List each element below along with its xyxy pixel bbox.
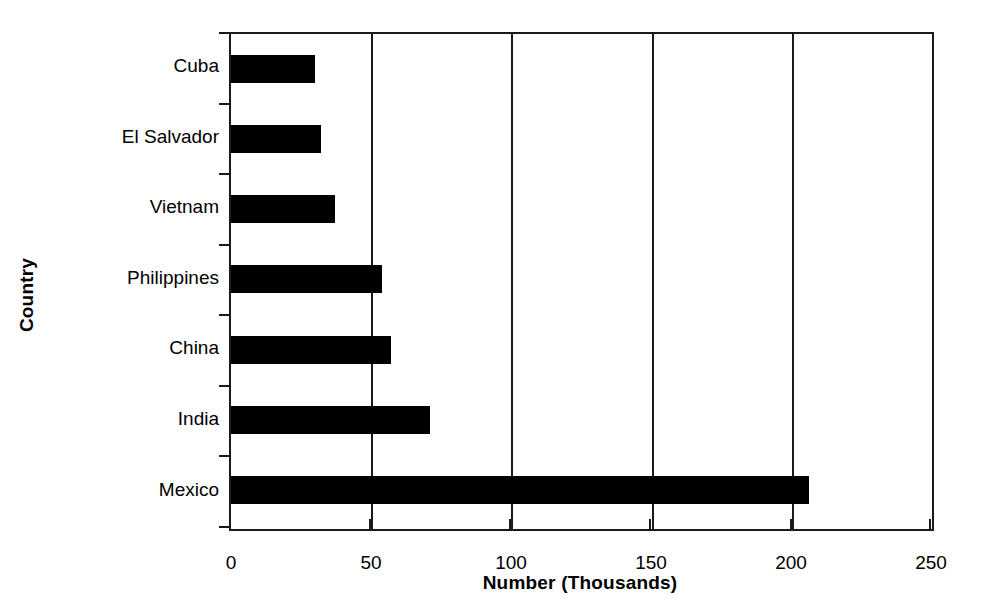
- bar-india: [231, 406, 430, 434]
- bar-china: [231, 336, 391, 364]
- x-axis-label-150: 150: [635, 552, 667, 574]
- x-axis-tick-250: [929, 519, 931, 529]
- x-axis-tick-0: [229, 519, 231, 529]
- bar-vietnam: [231, 195, 335, 223]
- x-axis-title: Number (Thousands): [483, 572, 678, 594]
- x-axis-tick-50: [369, 519, 371, 529]
- x-axis-tick-200: [790, 519, 792, 529]
- x-axis-label-50: 50: [360, 552, 381, 574]
- bar-philippines: [231, 265, 382, 293]
- y-axis-label-4: China: [169, 337, 229, 359]
- y-axis-label-1: El Salvador: [122, 126, 229, 148]
- y-axis-label-6: Mexico: [159, 479, 229, 501]
- x-axis-tick-150: [649, 519, 651, 529]
- plot-area: [229, 32, 934, 531]
- bar-cuba: [231, 55, 315, 83]
- x-axis-label-0: 0: [226, 552, 237, 574]
- y-axis-label-3: Philippines: [127, 267, 229, 289]
- y-axis-label-0: Cuba: [174, 55, 229, 77]
- bar-mexico: [231, 476, 809, 504]
- x-axis-label-100: 100: [495, 552, 527, 574]
- bar-el-salvador: [231, 125, 321, 153]
- y-axis-labels: Cuba El Salvador Vietnam Philippines Chi…: [0, 0, 229, 615]
- y-axis-label-5: India: [178, 408, 229, 430]
- bars-layer: [231, 34, 932, 529]
- x-axis-tick-100: [509, 519, 511, 529]
- x-axis-label-200: 200: [775, 552, 807, 574]
- bar-chart: Country Cuba El Salvador Vietnam Philipp…: [0, 0, 992, 615]
- x-axis-label-250: 250: [915, 552, 947, 574]
- y-axis-label-2: Vietnam: [150, 196, 229, 218]
